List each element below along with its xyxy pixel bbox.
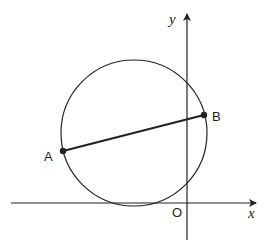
origin-label: O [172, 205, 182, 220]
chord-ab [63, 115, 204, 151]
point-b-label: B [212, 109, 221, 124]
point-b [201, 112, 207, 118]
x-axis-label: x [247, 205, 255, 221]
point-a-label: A [44, 149, 53, 164]
coordinate-diagram: A B O x y [0, 0, 268, 251]
y-axis-label: y [167, 11, 176, 27]
point-a [60, 148, 66, 154]
